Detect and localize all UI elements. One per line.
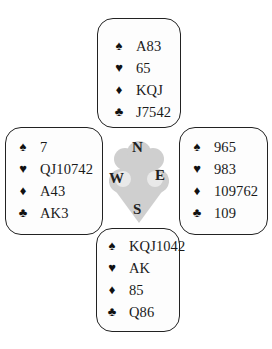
north-diamonds: ♦ KQJ [108,79,163,101]
spade-icon: ♠ [108,38,130,54]
north-spades: ♠ A83 [108,35,161,57]
east-spades: ♠ 965 [186,136,236,158]
compass-west-label: W [109,170,124,187]
south-diamonds: ♦ 85 [101,279,144,301]
club-icon: ♣ [12,205,34,221]
heart-icon: ♥ [186,161,208,177]
east-clubs: ♣ 109 [186,202,236,224]
north-hearts: ♥ 65 [108,57,151,79]
south-hearts-cards: AK [129,260,150,277]
south-hand: ♠ KQJ1042 ♥ AK ♦ 85 ♣ Q86 [96,228,180,332]
east-spades-cards: 965 [214,139,236,156]
south-clubs: ♣ Q86 [101,301,154,323]
compass-north-label: N [132,139,143,156]
south-spades-cards: KQJ1042 [129,238,185,255]
south-spades: ♠ KQJ1042 [101,235,185,257]
compass-south-label: S [133,201,141,218]
east-clubs-cards: 109 [214,205,236,222]
diamond-icon: ♦ [101,282,123,298]
north-diamonds-cards: KQJ [136,82,163,99]
east-diamonds-cards: 109762 [214,183,258,200]
west-spades: ♠ 7 [12,136,47,158]
diamond-icon: ♦ [12,183,34,199]
west-hand: ♠ 7 ♥ QJ10742 ♦ A43 ♣ AK3 [5,127,103,235]
heart-icon: ♥ [12,161,34,177]
spade-icon: ♠ [186,139,208,155]
south-clubs-cards: Q86 [129,304,154,321]
heart-icon: ♥ [108,60,130,76]
west-hearts-cards: QJ10742 [40,161,93,178]
south-hearts: ♥ AK [101,257,150,279]
club-icon: ♣ [101,304,123,320]
heart-icon: ♥ [101,260,123,276]
west-clubs: ♣ AK3 [12,202,69,224]
east-diamonds: ♦ 109762 [186,180,258,202]
north-clubs-cards: J7542 [136,104,171,121]
east-hearts-cards: 983 [214,161,236,178]
north-hand: ♠ A83 ♥ 65 ♦ KQJ ♣ J7542 [97,18,181,128]
club-icon: ♣ [186,205,208,221]
club-icon: ♣ [108,104,130,120]
north-spades-cards: A83 [136,38,161,55]
compass-rose: N W E S [103,137,175,227]
west-spades-cards: 7 [40,139,47,156]
spade-icon: ♠ [12,139,34,155]
diamond-icon: ♦ [186,183,208,199]
west-clubs-cards: AK3 [40,205,69,222]
north-hearts-cards: 65 [136,60,151,77]
east-hearts: ♥ 983 [186,158,236,180]
west-diamonds-cards: A43 [40,183,65,200]
west-hearts: ♥ QJ10742 [12,158,93,180]
west-diamonds: ♦ A43 [12,180,65,202]
compass-east-label: E [155,167,165,184]
south-diamonds-cards: 85 [129,282,144,299]
spade-icon: ♠ [101,238,123,254]
east-hand: ♠ 965 ♥ 983 ♦ 109762 ♣ 109 [179,127,268,235]
diamond-icon: ♦ [108,82,130,98]
north-clubs: ♣ J7542 [108,101,171,123]
